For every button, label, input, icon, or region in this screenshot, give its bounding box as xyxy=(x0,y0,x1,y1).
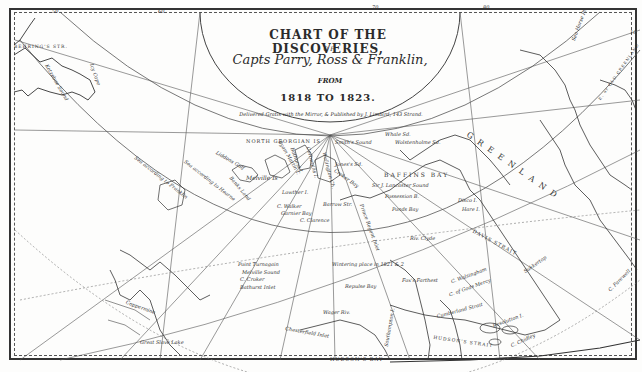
place-label: Possession B. xyxy=(385,194,419,199)
tick-label: 50 xyxy=(52,9,58,14)
place-label: Wager Riv. xyxy=(323,310,350,315)
place-label: Melville Is xyxy=(246,175,278,181)
place-label: Sir J. Lancaster Sound xyxy=(372,183,429,188)
place-label: BAFFINS BAY xyxy=(384,172,449,178)
place-label: C. Walker xyxy=(277,204,302,209)
place-label: Wintering place in 1821 & 2 xyxy=(332,262,404,267)
tick-label: 70 xyxy=(372,5,378,10)
place-label: Jones's Sd. xyxy=(335,162,363,167)
place-label: Barrow Str. xyxy=(323,202,352,207)
place-label: Repulse Bay xyxy=(345,284,376,289)
place-label: BEHRING'S STR. xyxy=(14,45,68,50)
place-label: Ponds Bay xyxy=(392,207,418,212)
place-label: Whale Sd. xyxy=(385,132,411,137)
place-label: Point Turnagain xyxy=(238,262,279,267)
place-label: Smith's Sound xyxy=(335,140,372,145)
place-label: Great Slave Lake xyxy=(140,340,184,345)
place-label: Fox's Farthest xyxy=(402,278,438,283)
place-label: C. Croker xyxy=(240,277,264,282)
place-label: Garnier Bay xyxy=(281,211,312,216)
tick-label: 10 xyxy=(630,30,636,35)
tick-label: 80 xyxy=(483,5,489,10)
place-label: Bathurst Inlet xyxy=(240,285,275,290)
place-label: C. Clarence xyxy=(300,218,330,223)
tick-label: 60 xyxy=(158,9,164,14)
place-label: Disco I. xyxy=(458,198,477,203)
title-publisher: Delivered Gratis with the Mirror, & Publ… xyxy=(236,111,426,117)
title-captains: Capts Parry, Ross & Franklin, xyxy=(225,52,435,67)
title-of: OF xyxy=(300,45,360,52)
place-label: Riv. Clyde xyxy=(410,236,435,241)
title-from: FROM xyxy=(300,76,360,85)
place-label: Hare I. xyxy=(462,207,480,212)
title-dates: 1818 TO 1823. xyxy=(268,92,388,103)
place-label: HUDSON'S BAY xyxy=(330,357,383,362)
place-label: Lowther I. xyxy=(282,190,308,195)
historical-map: CHART OF THE DISCOVERIES, OF Capts Parry… xyxy=(0,0,642,372)
place-label: Melville Sound xyxy=(242,270,280,275)
place-label: Wolstenholme Sd. xyxy=(395,140,441,145)
